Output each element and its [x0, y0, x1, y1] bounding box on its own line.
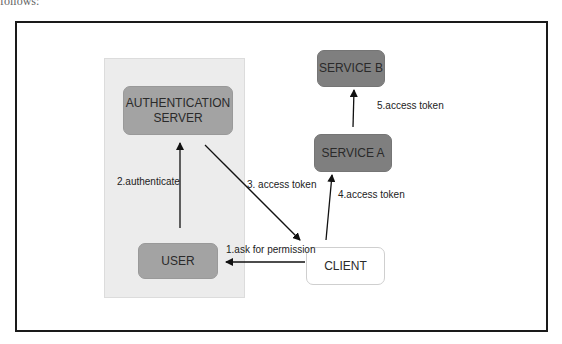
- edges-layer: [0, 0, 562, 344]
- edge-5-label: 5.access token: [377, 100, 444, 111]
- edge-3-label: 3. access token: [247, 179, 316, 190]
- edge-4-label: 4.access token: [338, 189, 405, 200]
- edge-4-arrow: [326, 175, 332, 240]
- edge-3-arrow: [205, 145, 300, 240]
- edge-1-label: 1.ask for permission: [226, 244, 315, 255]
- edge-5-arrow: [353, 90, 354, 127]
- edge-2-label: 2.authenticate: [117, 176, 180, 187]
